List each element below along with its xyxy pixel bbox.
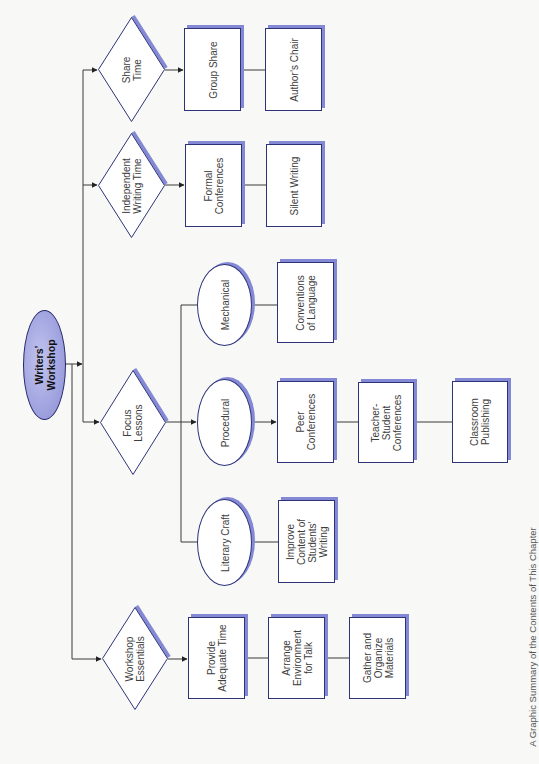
literary-craft-label: Literary Craft <box>219 499 230 586</box>
authors-chair-box: Author’s Chair <box>265 28 322 111</box>
writers-workshop-label: Writers’ Workshop <box>33 310 57 420</box>
mechanical-ellipse: Mechanical <box>197 264 252 346</box>
root-to-workshop-essentials-arrow <box>72 364 101 659</box>
procedural-label: Procedural <box>219 379 230 466</box>
share-time-diamond: Share Time <box>98 17 165 122</box>
gather-organize-materials-label: Gather and Organize Materials <box>361 617 394 699</box>
teacher-student-conferences-label: Teacher- Student Conferences <box>370 382 403 463</box>
literary-craft-ellipse: Literary Craft <box>197 499 252 586</box>
improve-content-label: Improve Content of Students’ Writing <box>285 500 329 583</box>
arrange-environment-label: Arrange Environment for Talk <box>280 617 313 699</box>
gather-organize-materials-box: Gather and Organize Materials <box>349 617 406 699</box>
silent-writing-box: Silent Writing <box>266 144 322 227</box>
improve-content-box: Improve Content of Students’ Writing <box>278 500 335 583</box>
workshop-essentials-label: Workshop Essentials <box>124 619 146 699</box>
classroom-publishing-label: Classroom Publishing <box>469 381 491 463</box>
focus-lessons-diamond: Focus Lessons <box>100 370 166 475</box>
focus-lessons-label: Focus Lessons <box>122 383 144 463</box>
root-label-text: Writers’ Workshop <box>33 339 57 390</box>
arrange-environment-box: Arrange Environment for Talk <box>268 617 325 699</box>
peer-conferences-label: Peer Conferences <box>295 381 317 463</box>
figure-caption: A Graphic Summary of the Contents of Thi… <box>527 517 538 757</box>
silent-writing-label: Silent Writing <box>289 144 300 227</box>
share-time-label: Share Time <box>121 30 143 110</box>
provide-adequate-time-box: Provide Adequate Time <box>188 617 245 699</box>
formal-conferences-box: Formal Conferences <box>185 144 242 227</box>
peer-conferences-box: Peer Conferences <box>277 381 334 463</box>
workshop-essentials-diamond: Workshop Essentials <box>102 607 168 710</box>
authors-chair-label: Author’s Chair <box>288 28 299 111</box>
mechanical-label: Mechanical <box>219 264 230 346</box>
independent-writing-time-diamond: Independent Writing Time <box>98 133 165 238</box>
conventions-of-language-box: Conventions of Language <box>277 262 334 343</box>
teacher-student-conferences-box: Teacher- Student Conferences <box>358 382 414 463</box>
independent-writing-time-label: Independent Writing Time <box>121 141 143 231</box>
group-share-box: Group Share <box>184 28 241 111</box>
classroom-publishing-box: Classroom Publishing <box>452 381 508 463</box>
group-share-label: Group Share <box>207 28 218 111</box>
procedural-ellipse: Procedural <box>197 379 252 466</box>
conventions-of-language-label: Conventions of Language <box>295 262 317 343</box>
provide-adequate-time-label: Provide Adequate Time <box>206 617 228 699</box>
writers-workshop-root-node: Writers’ Workshop <box>23 310 66 420</box>
formal-conferences-label: Formal Conferences <box>203 144 225 227</box>
